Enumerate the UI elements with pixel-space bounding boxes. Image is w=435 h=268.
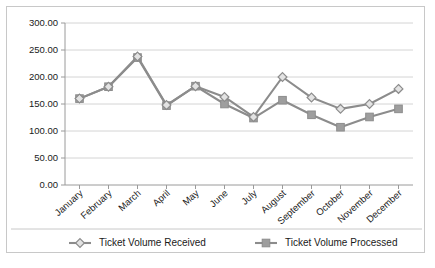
x-axis-label-june: June xyxy=(207,187,230,209)
data-point xyxy=(366,113,374,121)
data-point xyxy=(337,123,345,131)
data-point xyxy=(308,111,316,119)
data-point xyxy=(279,96,287,104)
x-axis-label-february: February xyxy=(78,187,114,221)
legend-marker-square xyxy=(262,239,270,247)
y-axis-tick-label: 200.00 xyxy=(29,71,58,82)
legend-item-1[interactable]: Ticket Volume Received xyxy=(69,237,206,248)
y-axis-tick-label: 150.00 xyxy=(29,98,58,109)
x-axis-label-march: March xyxy=(116,187,143,213)
legend-label: Ticket Volume Received xyxy=(99,237,206,248)
legend-item-2[interactable]: Ticket Volume Processed xyxy=(255,237,397,248)
line-chart: 0.0050.00100.00150.00200.00250.00300.00J… xyxy=(7,7,426,254)
y-axis-tick-label: 250.00 xyxy=(29,44,58,55)
series-ticket-volume-processed xyxy=(76,54,403,131)
x-axis-label-may: May xyxy=(180,187,201,207)
series-line xyxy=(80,56,399,116)
data-point xyxy=(336,104,345,113)
data-point xyxy=(394,84,403,93)
y-axis-tick-label: 0.00 xyxy=(40,179,59,190)
x-axis-label-april: April xyxy=(150,187,171,208)
legend-marker-diamond xyxy=(76,239,85,248)
legend-label: Ticket Volume Processed xyxy=(285,237,397,248)
y-axis-tick-label: 300.00 xyxy=(29,17,58,28)
y-axis-tick-label: 50.00 xyxy=(34,152,58,163)
chart-plot-area: 0.0050.00100.00150.00200.00250.00300.00J… xyxy=(7,7,426,254)
x-axis-label-july: July xyxy=(239,187,259,207)
chart-frame: 0.0050.00100.00150.00200.00250.00300.00J… xyxy=(6,6,425,253)
data-point xyxy=(395,105,403,113)
data-point xyxy=(365,100,374,109)
y-axis-tick-label: 100.00 xyxy=(29,125,58,136)
